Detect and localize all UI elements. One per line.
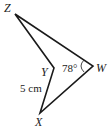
kite-diagram: Z W Y X 78° 5 cm [0,0,112,129]
vertex-label-w: W [96,61,107,75]
angle-arc-w [81,60,84,72]
vertex-label-x: X [34,115,43,129]
vertex-label-y: Y [41,65,49,79]
angle-label-w: 78° [62,62,77,74]
side-label-xy: 5 cm [20,82,42,94]
vertex-label-z: Z [4,1,11,15]
